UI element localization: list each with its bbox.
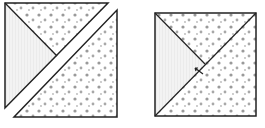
- diagram-canvas: [0, 0, 265, 128]
- left-block: [5, 3, 117, 117]
- right-block: [155, 13, 256, 116]
